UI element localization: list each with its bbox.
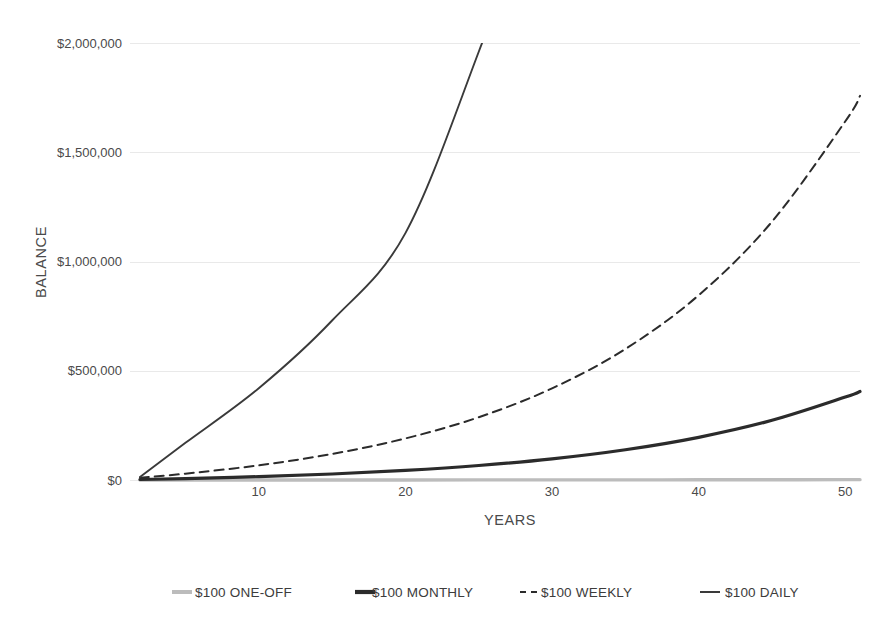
legend-label-100-one-off: $100 ONE-OFF — [195, 585, 292, 600]
y-tick-label-1: $500,000 — [68, 363, 122, 378]
x-axis-title: YEARS — [484, 512, 536, 528]
x-tick-label-0: 10 — [252, 484, 266, 499]
x-tick-label-4: 50 — [838, 484, 852, 499]
x-tick-label-1: 20 — [398, 484, 412, 499]
y-tick-label-3: $1,500,000 — [57, 145, 122, 160]
x-tick-label-3: 40 — [691, 484, 705, 499]
y-axis-title: BALANCE — [33, 226, 49, 298]
legend-label-100-daily: $100 DAILY — [725, 585, 799, 600]
compound-interest-chart: $0$500,000$1,000,000$1,500,000$2,000,000… — [0, 0, 887, 639]
legend-item-100-monthly[interactable]: $100 MONTHLY — [355, 585, 473, 600]
chart-canvas: $0$500,000$1,000,000$1,500,000$2,000,000… — [0, 0, 887, 639]
legend-label-100-weekly: $100 WEEKLY — [541, 585, 632, 600]
chart-background — [0, 0, 887, 639]
x-tick-label-2: 30 — [545, 484, 559, 499]
legend-label-100-monthly: $100 MONTHLY — [372, 585, 473, 600]
y-tick-label-0: $0 — [108, 473, 122, 488]
y-tick-label-4: $2,000,000 — [57, 36, 122, 51]
y-tick-label-2: $1,000,000 — [57, 254, 122, 269]
